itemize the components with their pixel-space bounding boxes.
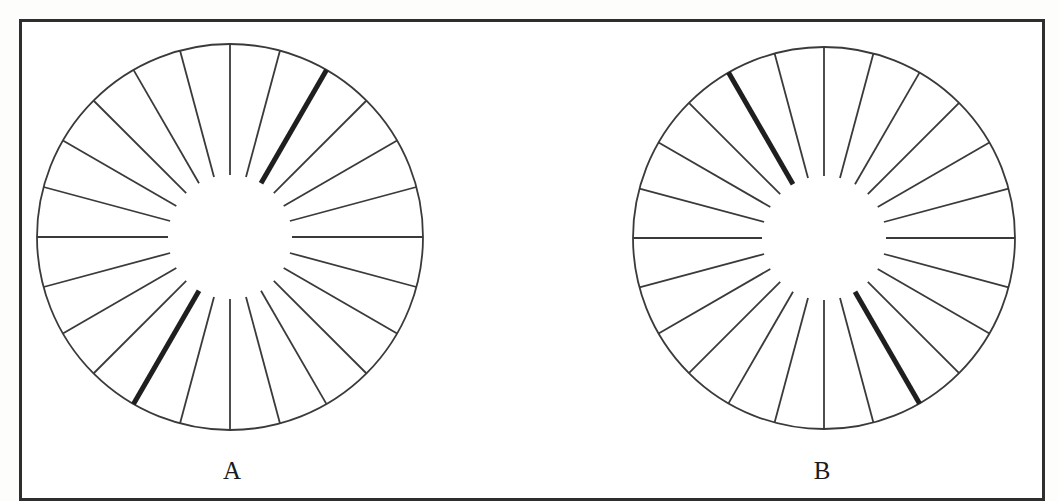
spoke <box>274 101 367 194</box>
spoke-wheel-b <box>633 47 1015 429</box>
spoke <box>94 281 187 374</box>
spoke <box>689 103 780 194</box>
astigmatism-dial-figure <box>0 0 1059 501</box>
spoke <box>274 281 367 374</box>
spoke <box>868 282 959 373</box>
spoke-wheel-a <box>37 44 423 430</box>
spoke <box>689 282 780 373</box>
panel-label-a: A <box>223 458 241 483</box>
spoke <box>94 101 187 194</box>
spoke <box>868 103 959 194</box>
panel-label-b: B <box>814 458 831 483</box>
